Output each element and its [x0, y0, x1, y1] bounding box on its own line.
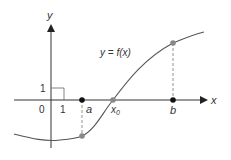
x-axis-label: x: [210, 94, 217, 106]
y-axis-label: y: [46, 9, 54, 21]
curve-point-fb: [170, 40, 176, 46]
point-b: [170, 97, 176, 103]
label-x0: x0: [110, 104, 120, 116]
label-x0-sub: 0: [116, 109, 120, 116]
curve-label: y = f(x): [99, 47, 131, 58]
y-tick-label: 1: [40, 83, 46, 94]
label-a: a: [86, 103, 92, 115]
label-b: b: [170, 104, 176, 116]
point-a: [79, 97, 85, 103]
origin-label: 0: [39, 104, 45, 115]
intermediate-value-diagram: y x 0 1 1 y = f(x) a x0 b: [0, 0, 231, 160]
unit-tick-marks: [51, 88, 64, 100]
curve-point-fa: [79, 133, 85, 139]
x-tick-label: 1: [60, 104, 66, 115]
point-x0: [110, 97, 116, 103]
